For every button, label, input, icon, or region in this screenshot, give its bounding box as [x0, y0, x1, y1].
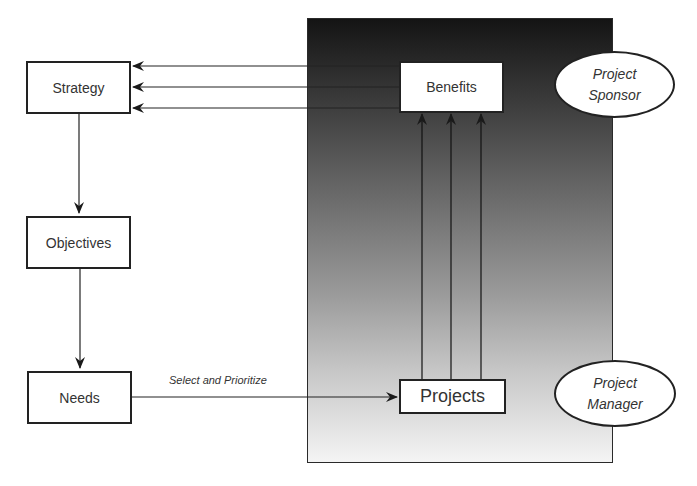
role-manager-line1: Project — [593, 373, 637, 394]
node-strategy-label: Strategy — [52, 80, 104, 96]
node-objectives-label: Objectives — [46, 235, 111, 251]
node-projects: Projects — [399, 379, 506, 414]
role-project-sponsor: Project Sponsor — [554, 51, 675, 118]
node-needs-label: Needs — [59, 390, 99, 406]
node-strategy: Strategy — [26, 61, 131, 114]
node-projects-label: Projects — [420, 386, 485, 407]
role-project-manager: Project Manager — [554, 360, 676, 427]
role-sponsor-line2: Sponsor — [588, 85, 640, 106]
node-benefits-label: Benefits — [426, 79, 477, 95]
edge-label-select-prioritize: Select and Prioritize — [169, 374, 267, 386]
node-objectives: Objectives — [26, 216, 131, 269]
node-benefits: Benefits — [399, 61, 504, 113]
role-sponsor-line1: Project — [593, 64, 637, 85]
node-needs: Needs — [27, 371, 132, 424]
role-manager-line2: Manager — [587, 394, 642, 415]
